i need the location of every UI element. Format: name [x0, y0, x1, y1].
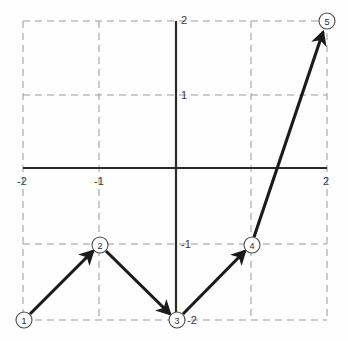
x-tick-label-2: 2 [323, 175, 329, 187]
point-label-2: 2 [97, 241, 102, 251]
point-marker-5[interactable]: 5 [319, 13, 335, 29]
plot-canvas: 1 2 3 4 5 2 1 -1 -2 -2 [0, 0, 348, 341]
y-tick-label-neg1: -1 [181, 238, 191, 250]
point-label-3: 3 [174, 316, 179, 326]
point-marker-4[interactable]: 4 [244, 237, 260, 253]
x-tick-label-neg2: -2 [17, 175, 27, 187]
point-label-4: 4 [249, 241, 254, 251]
vector-path-plot: 1 2 3 4 5 2 1 -1 -2 -2 [0, 0, 348, 341]
point-marker-3[interactable]: 3 [169, 312, 185, 328]
x-tick-label-neg1: -1 [94, 175, 104, 187]
segment-2-to-3 [106, 251, 170, 314]
point-marker-2[interactable]: 2 [92, 237, 108, 253]
segment-1-to-2 [30, 251, 93, 314]
point-marker-1[interactable]: 1 [16, 312, 32, 328]
y-tick-label-1: 1 [181, 89, 187, 101]
point-label-5: 5 [324, 17, 329, 27]
y-tick-label-neg2: -2 [187, 314, 197, 326]
segment-3-to-4 [183, 251, 245, 314]
segment-4-to-5 [254, 32, 323, 237]
point-label-1: 1 [21, 316, 26, 326]
y-tick-label-2: 2 [181, 14, 187, 26]
